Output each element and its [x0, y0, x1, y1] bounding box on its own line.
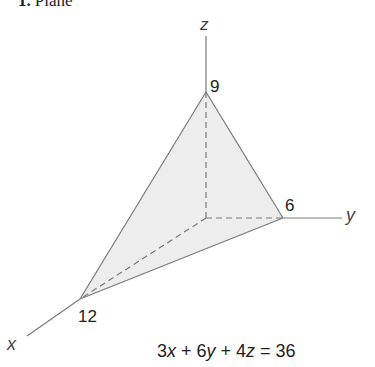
z-intercept-label: 9 — [210, 77, 219, 96]
eq-plus-1: + — [176, 341, 197, 361]
eq-var-z: z — [246, 341, 255, 361]
eq-coef-z: 4 — [236, 341, 246, 361]
z-axis-label: z — [199, 15, 209, 34]
x-axis — [27, 299, 80, 336]
eq-var-x: x — [167, 341, 176, 361]
x-intercept-label: 12 — [78, 307, 97, 326]
plane-diagram: 9 6 12 z y x — [0, 0, 375, 367]
y-axis-label: y — [344, 205, 356, 225]
plane-triangle — [80, 92, 283, 299]
eq-rhs: 36 — [276, 341, 296, 361]
plane-equation: 3x + 6y + 4z = 36 — [157, 341, 296, 362]
eq-var-y: y — [207, 341, 216, 361]
eq-plus-2: + — [216, 341, 237, 361]
eq-coef-y: 6 — [197, 341, 207, 361]
eq-coef-x: 3 — [157, 341, 167, 361]
y-intercept-label: 6 — [285, 196, 294, 215]
x-axis-label: x — [6, 334, 17, 354]
eq-equals: = — [255, 341, 276, 361]
